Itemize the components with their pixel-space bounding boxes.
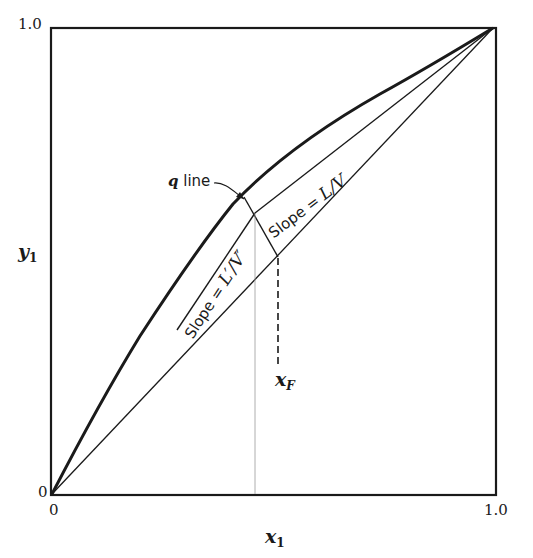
x-axis-label: x1: [265, 525, 285, 550]
x-axis-sub: 1: [276, 536, 284, 550]
x-axis-var: x: [265, 525, 276, 547]
rectifying-operating-line: [255, 28, 493, 213]
y-tick-max: 1.0: [18, 15, 42, 33]
feed-sub: F: [286, 379, 295, 393]
q-line-label-text: line: [179, 172, 211, 190]
stripping-operating-line: [177, 213, 255, 330]
feed-composition-label: xF: [275, 368, 295, 393]
y-tick-min: 0: [38, 483, 48, 501]
q-line-label-q: q: [168, 172, 179, 190]
x-tick-min: 0: [49, 501, 59, 519]
feed-var: x: [275, 368, 286, 390]
x-tick-max: 1.0: [484, 501, 508, 519]
diagonal-line: [52, 28, 493, 494]
y-axis-label: y1: [18, 240, 37, 265]
diagram-canvas: [0, 0, 533, 558]
y-axis-sub: 1: [29, 251, 37, 265]
y-axis-var: y: [18, 240, 29, 262]
q-line-label: q line: [168, 172, 210, 190]
